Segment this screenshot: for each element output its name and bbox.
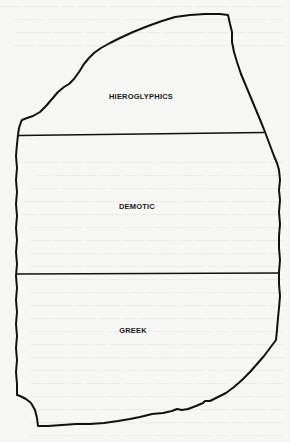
divider-demotic-greek	[17, 273, 279, 274]
rosetta-stone-outline	[0, 0, 290, 442]
divider-hieroglyphics-demotic	[19, 133, 264, 136]
label-greek: GREEK	[119, 326, 147, 335]
label-demotic: DEMOTIC	[119, 202, 155, 211]
page: ──── ─── ───── ── ─── ────── ──── ── ───…	[0, 0, 290, 442]
stone-outline-path	[16, 14, 280, 426]
label-hieroglyphics: HIEROGLYPHICS	[109, 92, 173, 101]
